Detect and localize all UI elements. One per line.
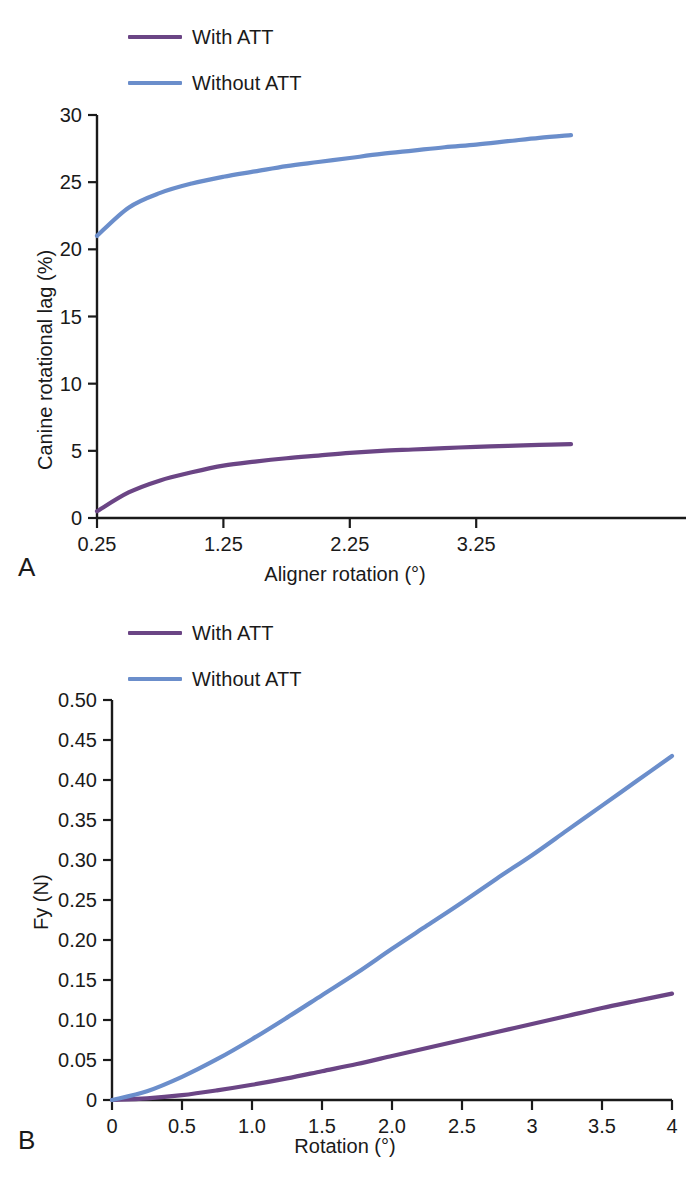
series-line-without-att: [97, 135, 571, 236]
y-tick-label: 0.25: [58, 889, 97, 911]
y-tick-label: 0.50: [58, 689, 97, 711]
y-tick-label: 0.30: [58, 849, 97, 871]
y-axis-title-b: Fy (N): [30, 874, 53, 930]
y-tick-label: 15: [60, 306, 82, 328]
x-tick-label: 0: [106, 1115, 117, 1137]
y-tick-label: 10: [60, 373, 82, 395]
series-line-without-att: [112, 756, 672, 1100]
y-axis-title-a: Canine rotational lag (%): [34, 250, 57, 470]
y-tick-label: 0: [86, 1089, 97, 1111]
x-tick-label: 0.25: [78, 533, 117, 555]
panel-a: With ATT Without ATT 0510152025300.251.2…: [0, 0, 690, 600]
x-tick-label: 2.0: [378, 1115, 406, 1137]
x-tick-label: 1.0: [238, 1115, 266, 1137]
y-tick-label: 0.15: [58, 969, 97, 991]
series-line-with-att: [112, 994, 672, 1100]
figure-container: With ATT Without ATT 0510152025300.251.2…: [0, 0, 690, 1181]
y-tick-label: 0.40: [58, 769, 97, 791]
panel-b: With ATT Without ATT 00.050.100.150.200.…: [0, 600, 690, 1181]
panel-letter-a: A: [18, 552, 35, 583]
x-axis-title-a: Aligner rotation (°): [0, 563, 690, 586]
series-line-with-att: [97, 444, 571, 511]
plot-area-b: 00.050.100.150.200.250.300.350.400.450.5…: [0, 600, 690, 1181]
x-tick-label: 2.5: [448, 1115, 476, 1137]
x-tick-label: 3.5: [588, 1115, 616, 1137]
y-tick-label: 0.05: [58, 1049, 97, 1071]
y-tick-label: 0.45: [58, 729, 97, 751]
x-tick-label: 3.25: [457, 533, 496, 555]
y-tick-label: 25: [60, 171, 82, 193]
y-tick-label: 30: [60, 104, 82, 126]
y-tick-label: 0.35: [58, 809, 97, 831]
x-axis-title-b: Rotation (°): [0, 1135, 690, 1158]
y-tick-label: 0.20: [58, 929, 97, 951]
x-tick-label: 1.5: [308, 1115, 336, 1137]
y-tick-label: 0.10: [58, 1009, 97, 1031]
x-tick-label: 1.25: [204, 533, 243, 555]
y-tick-label: 0: [71, 507, 82, 529]
x-tick-label: 2.25: [330, 533, 369, 555]
y-tick-label: 5: [71, 440, 82, 462]
x-tick-label: 4: [666, 1115, 677, 1137]
x-tick-label: 0.5: [168, 1115, 196, 1137]
x-tick-label: 3: [526, 1115, 537, 1137]
panel-letter-b: B: [18, 1125, 35, 1156]
y-tick-label: 20: [60, 238, 82, 260]
plot-area-a: 0510152025300.251.252.253.25: [0, 0, 690, 600]
